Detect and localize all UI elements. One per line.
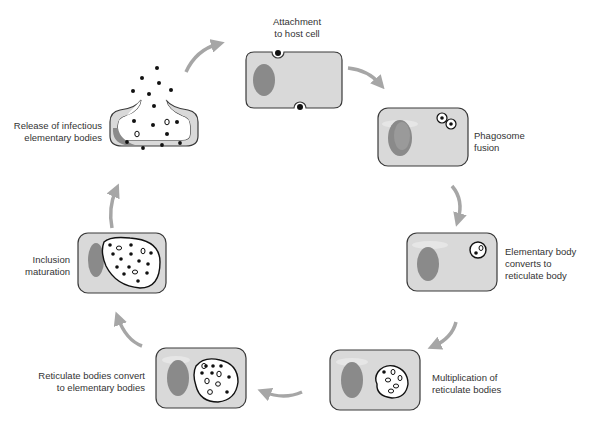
chlamydia-cycle-diagram bbox=[0, 0, 594, 426]
arrow-rb-to-maturation bbox=[118, 318, 142, 346]
label-rb-to-eb: Reticulate bodies convert to elementary … bbox=[10, 370, 145, 394]
nucleus bbox=[253, 64, 275, 96]
label-release: Release of infectious elementary bodies bbox=[4, 120, 102, 144]
label-line: to host cell bbox=[252, 28, 342, 40]
inclusion bbox=[194, 359, 238, 402]
elementary-body bbox=[275, 50, 281, 56]
label-eb-to-rb: Elementary body converts to reticulate b… bbox=[505, 246, 576, 282]
nucleus bbox=[167, 360, 189, 396]
elementary-body bbox=[297, 104, 303, 110]
arrow-eb-to-multiplication bbox=[434, 322, 456, 346]
arrow-multiplication-to-rb bbox=[264, 392, 302, 396]
label-line: converts to bbox=[505, 258, 576, 270]
arrow-maturation-to-release bbox=[111, 190, 116, 228]
label-line: elementary bodies bbox=[4, 132, 102, 144]
label-maturation: Inclusion maturation bbox=[10, 254, 70, 278]
cell-rb-to-eb bbox=[156, 348, 246, 408]
arrow-release-to-attachment bbox=[186, 44, 218, 72]
label-line: Elementary body bbox=[505, 246, 576, 258]
label-line: reticulate body bbox=[505, 270, 576, 282]
label-line: maturation bbox=[10, 266, 70, 278]
nucleus bbox=[88, 243, 104, 277]
label-line: Inclusion bbox=[10, 254, 70, 266]
label-attachment: Attachment to host cell bbox=[252, 16, 342, 40]
label-line: fusion bbox=[474, 142, 525, 154]
label-line: reticulate bodies bbox=[432, 384, 501, 396]
label-line: Release of infectious bbox=[4, 120, 102, 132]
cell-release bbox=[110, 66, 198, 150]
label-line: Attachment bbox=[252, 16, 342, 28]
label-line: Phagosome bbox=[474, 130, 525, 142]
nucleus bbox=[417, 247, 439, 281]
inclusion bbox=[376, 366, 408, 398]
cell-maturation bbox=[78, 233, 166, 293]
label-line: Multiplication of bbox=[432, 372, 501, 384]
label-multiplication: Multiplication of reticulate bodies bbox=[432, 372, 501, 396]
cell-phagosome bbox=[378, 108, 468, 166]
label-line: to elementary bodies bbox=[10, 382, 145, 394]
cell-multiplication bbox=[330, 350, 420, 410]
label-line: Reticulate bodies convert bbox=[10, 370, 145, 382]
arrow-attachment-to-phagosome bbox=[348, 68, 380, 84]
label-phagosome: Phagosome fusion bbox=[474, 130, 525, 154]
nucleus bbox=[341, 362, 363, 398]
cell-attachment bbox=[246, 50, 342, 110]
arrow-phagosome-to-eb bbox=[452, 186, 460, 220]
cell-eb-to-rb bbox=[407, 233, 497, 291]
inclusion bbox=[470, 242, 486, 258]
